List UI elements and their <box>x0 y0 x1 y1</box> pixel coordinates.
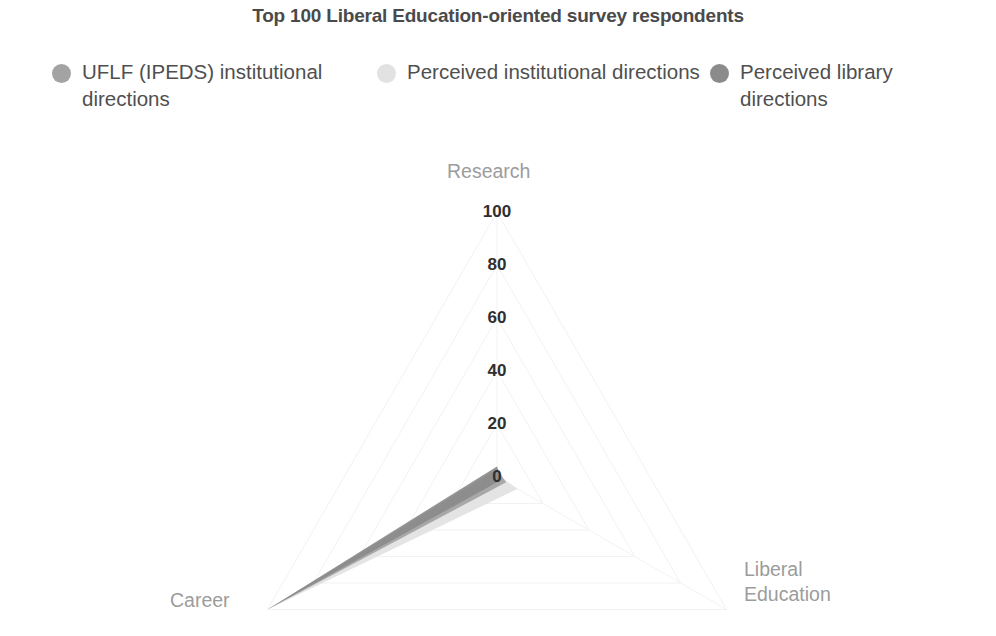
axis-label-liberal-education: Liberal Education <box>744 557 831 607</box>
radial-tick-label: 80 <box>488 255 507 275</box>
radar-plot-area: Research Career Liberal Education 020406… <box>0 0 996 636</box>
axis-spoke <box>497 477 726 610</box>
radial-tick-label: 40 <box>488 361 507 381</box>
radial-tick-label: 0 <box>492 467 501 487</box>
radial-tick-label: 20 <box>488 414 507 434</box>
axis-label-career: Career <box>170 588 230 613</box>
axis-label-research: Research <box>447 159 530 184</box>
series-polygon[interactable] <box>268 466 502 609</box>
radial-tick-label: 100 <box>483 202 511 222</box>
radar-chart-figure: Top 100 Liberal Education-oriented surve… <box>0 0 996 636</box>
radial-tick-label: 60 <box>488 308 507 328</box>
